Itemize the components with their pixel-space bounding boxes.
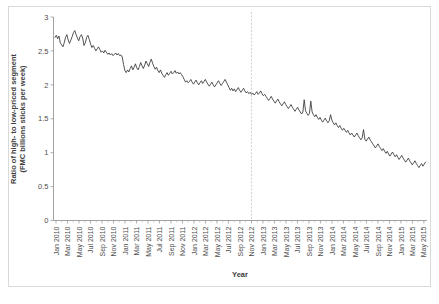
y-tick-label: 0: [44, 216, 48, 225]
x-tick-label: Jul 2013: [294, 226, 301, 253]
x-tick-label: Mar 2011: [133, 226, 140, 255]
x-axis-title: Year: [232, 270, 248, 279]
x-tick-label: Mar 2010: [64, 226, 71, 256]
x-tick-label: Jul 2012: [225, 226, 232, 253]
y-tick-label: 2.5: [38, 47, 48, 56]
x-tick-label: Jul 2014: [363, 226, 370, 253]
x-tick-label: Sep 2011: [168, 226, 176, 256]
x-tick-label: May 2012: [214, 226, 222, 257]
x-tick-label: Mar 2015: [409, 226, 416, 256]
x-tick-label: Nov 2012: [248, 226, 255, 256]
y-tick-label: 3: [44, 13, 48, 22]
x-tick-label: Sep 2013: [306, 226, 314, 256]
x-tick-label: Nov 2010: [110, 226, 117, 256]
y-tick-label: 0.5: [38, 182, 48, 191]
x-tick-label: Sep 2014: [375, 226, 383, 256]
x-tick-label: Jan 2012: [191, 226, 198, 255]
x-tick-label: May 2010: [76, 226, 84, 257]
x-tick-label: Sep 2012: [237, 226, 245, 256]
x-tick-label: Jan 2011: [122, 226, 129, 254]
y-tick-label: 1: [44, 148, 48, 157]
x-tick-label: Jan 2015: [398, 226, 405, 255]
x-tick-label: Jul 2010: [87, 226, 94, 253]
x-tick-label: May 2011: [145, 226, 153, 256]
data-series-line: [55, 31, 426, 168]
x-tick-label: Mar 2012: [202, 226, 209, 256]
y-tick-label: 2: [44, 81, 48, 90]
x-tick-label: May 2013: [283, 226, 291, 257]
x-tick-label: May 2015: [420, 226, 428, 257]
x-tick-label: Nov 2014: [386, 226, 393, 256]
x-tick-label: May 2014: [352, 226, 360, 257]
x-tick-label: Jan 2010: [53, 226, 60, 255]
line-chart: 00.511.522.53Jan 2010Mar 2010May 2010Jul…: [0, 0, 439, 304]
x-tick-label: Mar 2013: [271, 226, 278, 256]
x-tick-label: Jan 2014: [329, 226, 336, 255]
x-tick-label: Jan 2013: [260, 226, 267, 255]
x-tick-label: Mar 2014: [340, 226, 347, 256]
x-tick-label: Sep 2010: [99, 226, 107, 256]
x-tick-label: Jul 2011: [156, 226, 163, 252]
axis-lines: [54, 17, 428, 221]
y-tick-label: 1.5: [38, 114, 48, 123]
x-tick-label: Nov 2011: [179, 226, 186, 256]
x-tick-label: Nov 2013: [317, 226, 324, 256]
y-axis-title: Ratio of high- to low-priced segment(FMC…: [9, 54, 27, 185]
chart-figure: 00.511.522.53Jan 2010Mar 2010May 2010Jul…: [0, 0, 439, 304]
